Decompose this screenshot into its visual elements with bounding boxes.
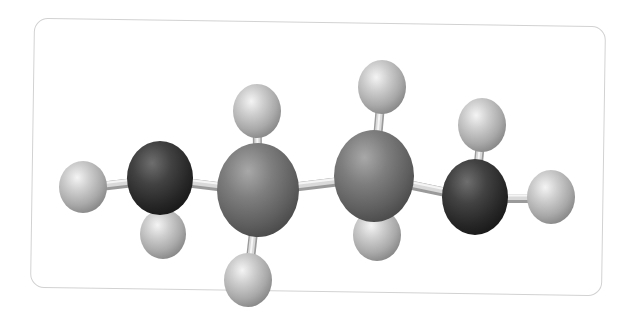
molecule-figure: Butane ball-and-stick model <box>0 0 629 316</box>
hydrogen-atom-h1 <box>59 161 107 213</box>
hydrogen-atom-h5 <box>358 60 406 114</box>
carbon-atom-c1 <box>127 141 193 215</box>
carbon-atom-c4 <box>442 159 508 235</box>
carbon-atom-c3 <box>334 130 414 222</box>
hydrogen-atom-h3 <box>233 84 281 138</box>
hydrogen-atom-h4 <box>224 253 272 307</box>
butane-molecule-model <box>0 0 629 316</box>
hydrogen-atom-h2 <box>140 209 186 259</box>
carbon-atom-c2 <box>217 143 299 237</box>
hydrogen-atom-h8 <box>527 170 575 224</box>
hydrogen-atom-h7 <box>458 98 506 152</box>
